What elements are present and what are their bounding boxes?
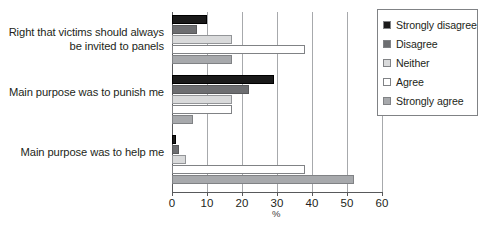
bar-2-1: [172, 145, 179, 154]
tick-mark-10: [207, 192, 208, 196]
bar-0-0: [172, 15, 207, 24]
legend-swatch-icon-1: [383, 40, 391, 48]
category-label-0-line-0: Right that victims should always: [0, 26, 164, 40]
legend-item-1[interactable]: Disagree: [383, 34, 473, 53]
legend-item-4[interactable]: Strongly agree: [383, 91, 473, 110]
bar-0-3: [172, 45, 305, 54]
bar-0-1: [172, 25, 197, 34]
legend-swatch-icon-0: [383, 21, 391, 29]
legend-label-4: Strongly agree: [396, 95, 464, 107]
x-axis-title: %: [272, 208, 280, 219]
chart-legend: Strongly disagreeDisagreeNeitherAgreeStr…: [377, 9, 478, 116]
bar-1-4: [172, 115, 193, 124]
horizontal-bar-chart: Right that victims should always be invi…: [0, 0, 484, 233]
legend-item-0[interactable]: Strongly disagree: [383, 15, 473, 34]
bar-group-2: [172, 135, 382, 189]
category-label-2-line-0: Main purpose was to help me: [0, 146, 164, 160]
tick-label-60: 60: [367, 197, 397, 209]
category-label-0: Right that victims should always be invi…: [0, 26, 164, 53]
tick-label-20: 20: [227, 197, 257, 209]
bar-groups: [172, 12, 382, 192]
bar-2-2: [172, 155, 186, 164]
tick-mark-40: [312, 192, 313, 196]
bar-2-3: [172, 165, 305, 174]
bar-1-0: [172, 75, 274, 84]
legend-label-1: Disagree: [396, 38, 438, 50]
legend-item-2[interactable]: Neither: [383, 53, 473, 72]
bar-2-0: [172, 135, 176, 144]
bar-1-2: [172, 95, 232, 104]
tick-mark-50: [347, 192, 348, 196]
bar-group-1: [172, 75, 382, 129]
legend-item-3[interactable]: Agree: [383, 72, 473, 91]
tick-mark-30: [277, 192, 278, 196]
category-label-0-line-1: be invited to panels: [0, 40, 164, 54]
category-axis-labels: Right that victims should always be invi…: [0, 12, 168, 192]
legend-label-0: Strongly disagree: [396, 19, 477, 31]
tick-label-0: 0: [157, 197, 187, 209]
plot-area: [172, 12, 382, 192]
tick-mark-20: [242, 192, 243, 196]
bar-1-3: [172, 105, 232, 114]
bar-0-4: [172, 55, 232, 64]
legend-swatch-icon-3: [383, 78, 391, 86]
legend-label-3: Agree: [396, 76, 424, 88]
bar-group-0: [172, 15, 382, 69]
legend-swatch-icon-4: [383, 97, 391, 105]
tick-label-40: 40: [297, 197, 327, 209]
category-label-1: Main purpose was to punish me: [0, 86, 164, 100]
category-label-1-line-0: Main purpose was to punish me: [0, 86, 164, 100]
tick-label-10: 10: [192, 197, 222, 209]
tick-mark-60: [382, 192, 383, 196]
category-label-2: Main purpose was to help me: [0, 146, 164, 160]
legend-label-2: Neither: [396, 57, 429, 69]
legend-swatch-icon-2: [383, 59, 391, 67]
bar-2-4: [172, 175, 354, 184]
tick-label-50: 50: [332, 197, 362, 209]
bar-0-2: [172, 35, 232, 44]
tick-mark-0: [172, 192, 173, 196]
bar-1-1: [172, 85, 249, 94]
